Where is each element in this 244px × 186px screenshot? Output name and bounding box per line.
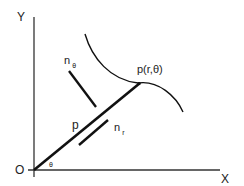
- point-marker: [137, 82, 140, 85]
- origin-label: O: [15, 164, 24, 176]
- polar-diagram: Y X O θ p(r,θ) p nr nθ: [0, 0, 244, 186]
- nr-base: n: [114, 121, 120, 133]
- unit-vector-ntheta: [69, 71, 96, 107]
- y-axis-label: Y: [17, 11, 25, 23]
- curve: [85, 34, 183, 112]
- nr-label: nr: [114, 122, 122, 133]
- position-vector-label: p: [72, 119, 79, 131]
- x-axis-label: X: [221, 173, 229, 185]
- ntheta-subscript: θ: [72, 62, 76, 69]
- point-label: p(r,θ): [137, 64, 163, 75]
- ntheta-base: n: [64, 54, 70, 66]
- angle-label: θ: [49, 161, 53, 168]
- unit-vector-nr: [79, 120, 108, 145]
- ntheta-label: nθ: [64, 55, 74, 66]
- diagram-graphics: [0, 0, 244, 186]
